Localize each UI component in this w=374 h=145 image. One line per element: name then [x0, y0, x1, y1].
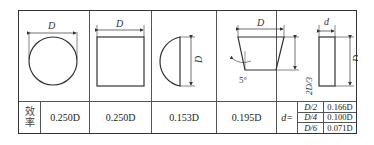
efficiency-value: 0.100D — [324, 112, 356, 122]
dim-label-d: d — [324, 16, 330, 27]
row-label-efficiency: 效率 — [19, 101, 40, 133]
dim-label-D: D — [256, 17, 265, 28]
rectangle-shape — [319, 37, 335, 86]
square-shape — [97, 37, 144, 86]
dim-label-D: D — [115, 18, 124, 29]
hydraulic-efficiency-table: D D D D 5° 2D/3 d D 效率 0.250D 0.250D 0.1… — [18, 10, 357, 134]
semicircle-shape — [160, 37, 180, 86]
d-value: D/6 — [298, 122, 323, 133]
d-value: D/4 — [298, 112, 323, 122]
d-value: D/2 — [298, 102, 323, 112]
dim-label-D: D — [351, 54, 358, 63]
dim-label-D: D — [193, 55, 204, 64]
dim-label-angle: 5° — [239, 75, 248, 85]
efficiency-circle: 0.250D — [41, 101, 89, 133]
efficiency-semicircle: 0.153D — [152, 101, 216, 133]
dim-label-2D3: 2D/3 — [304, 77, 314, 96]
shapes-drawing: D D D D 5° 2D/3 d D — [19, 11, 358, 101]
efficiency-square: 0.250D — [90, 101, 151, 133]
dim-label-D: D — [47, 20, 56, 31]
d-equals-label: d= — [277, 101, 297, 133]
circle-shape — [29, 37, 77, 85]
row-label-text: 效率 — [25, 106, 35, 128]
efficiency-trapezoid: 0.195D — [217, 101, 276, 133]
efficiency-value: 0.166D — [324, 102, 356, 112]
efficiency-value: 0.071D — [324, 122, 356, 133]
